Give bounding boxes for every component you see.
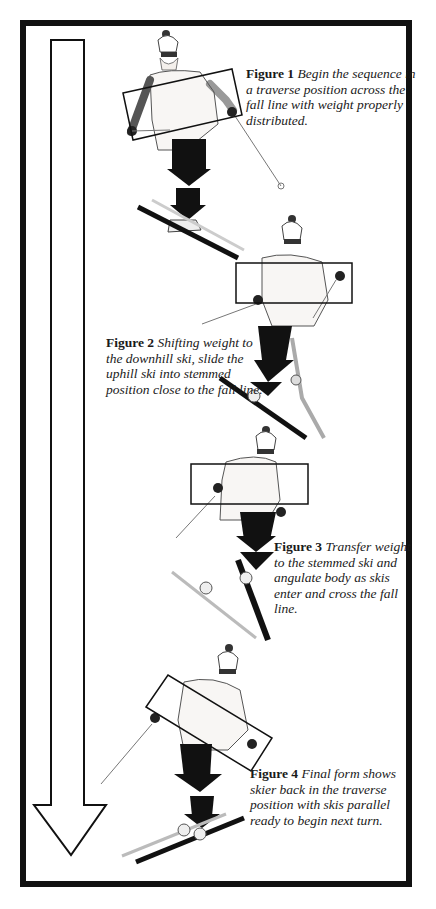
sequence-arrow-icon [34,40,106,855]
skier-figure-1 [123,30,284,258]
caption-figure-4: Figure 4 Final form shows skier back in … [250,766,415,828]
skier-figure-4 [101,644,272,862]
caption-figure-1: Figure 1 Begin the sequence in a travers… [246,66,416,128]
caption-label: Figure 3 [274,539,322,554]
caption-label: Figure 4 [250,766,298,781]
caption-label: Figure 2 [106,335,154,350]
caption-label: Figure 1 [246,66,294,81]
caption-figure-2: Figure 2 Shifting weight to the downhill… [106,335,266,397]
caption-figure-3: Figure 3 Transfer weight to the stemmed … [274,539,414,617]
